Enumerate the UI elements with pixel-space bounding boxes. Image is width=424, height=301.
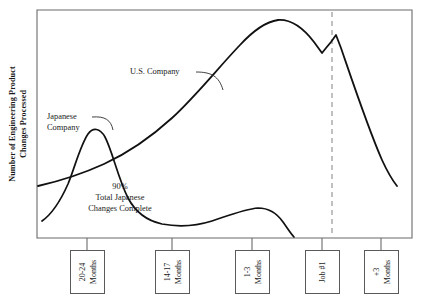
x-category-box-5-line-1: +3 [371, 260, 382, 284]
annotation-japanese-company: Japanese Company [47, 111, 80, 133]
annotation-japanese-company-line-1: Japanese [47, 111, 80, 122]
x-category-box-2-line-2: Months [173, 260, 184, 284]
annotation-japanese-company-line-2: Company [47, 122, 80, 133]
x-category-box-3-line-2: Months [253, 260, 264, 284]
plot-area [0, 0, 424, 301]
x-category-box-4: Job #1 [305, 250, 340, 294]
annotation-completion: 90% Total Japanese Changes Complete [62, 181, 178, 214]
annotation-us-company: U.S. Company [130, 66, 180, 77]
x-category-box-5-line-2: Months [382, 260, 393, 284]
x-category-box-1-line-2: Months [88, 260, 99, 284]
annotation-completion-line-2: Total Japanese [62, 192, 178, 203]
annotation-completion-line-1: 90% [62, 181, 178, 192]
x-category-box-2: 14-17 Months [155, 250, 190, 294]
annotation-us-company-text: U.S. Company [130, 66, 180, 77]
annotation-completion-line-3: Changes Complete [62, 203, 178, 214]
x-category-box-1: 20-24 Months [70, 250, 105, 294]
x-category-box-2-line-1: 14-17 [162, 260, 173, 284]
x-category-box-3: 1-3 Months [235, 250, 270, 294]
x-category-box-5: +3 Months [364, 250, 399, 294]
x-category-box-1-line-1: 20-24 [77, 260, 88, 284]
x-category-box-3-line-1: 1-3 [242, 260, 253, 284]
chart-figure: Number of Engineering Product Changes Pr… [0, 0, 424, 301]
x-category-box-4-line-1: Job #1 [317, 261, 328, 282]
